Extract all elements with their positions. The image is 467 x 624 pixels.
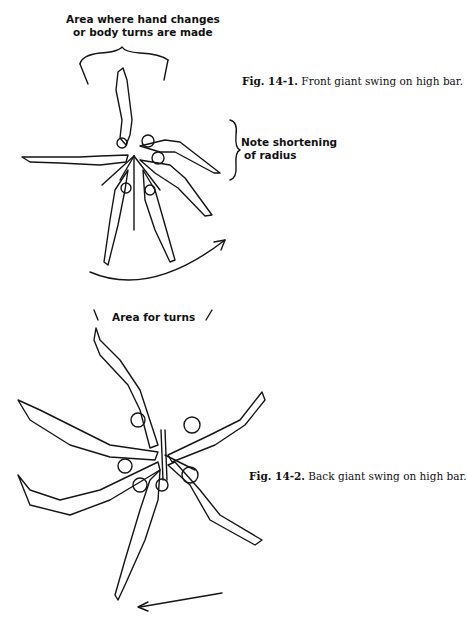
- gymnast-figure-front-swing: [22, 68, 220, 265]
- fig1-side-annotation: Note shortening of radius: [241, 136, 337, 162]
- rotation-arrow-fig2: [138, 593, 222, 611]
- gymnast-figure-back-swing: [18, 328, 265, 600]
- fig1-caption: Fig. 14-1. Front giant swing on high bar…: [242, 75, 463, 87]
- annotation-line-1: Note shortening: [241, 136, 337, 149]
- fig2-top-annotation: Area for turns: [112, 311, 195, 324]
- fig2-caption: Fig. 14-2. Back giant swing on high bar.: [249, 470, 467, 482]
- fig2-caption-number: Fig. 14-2.: [249, 470, 305, 482]
- annotation-line-2: of radius: [241, 149, 337, 162]
- rotation-arrow-fig1: [90, 240, 225, 280]
- annotation-line-1: Area where hand changes: [66, 13, 220, 26]
- annotation-line-2: or body turns are made: [66, 26, 220, 39]
- top-brace-fig1: [80, 47, 168, 84]
- side-brace-fig1: [230, 120, 240, 180]
- fig1-top-annotation: Area where hand changes or body turns ar…: [66, 13, 220, 39]
- fig1-caption-number: Fig. 14-1.: [242, 75, 298, 87]
- fig2-caption-text: Back giant swing on high bar.: [305, 470, 467, 482]
- fig1-caption-text: Front giant swing on high bar.: [298, 75, 463, 87]
